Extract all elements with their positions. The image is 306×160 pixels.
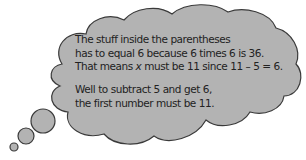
thought-text: That means bbox=[75, 60, 136, 72]
thought-line: That means x must be 11 since 11 – 5 = 6… bbox=[75, 60, 283, 74]
thought-line: the first number must be 11. bbox=[75, 97, 214, 111]
thought-paragraph-1: The stuff inside the parentheses has to … bbox=[75, 33, 283, 74]
thought-cloud bbox=[0, 0, 306, 160]
thought-bubble-medium bbox=[18, 128, 34, 144]
thought-paragraph-2: Well to subtract 5 and get 6, the first … bbox=[75, 83, 214, 110]
thought-bubble-small bbox=[10, 143, 18, 151]
thought-line: The stuff inside the parentheses bbox=[75, 33, 283, 47]
thought-bubble-large bbox=[31, 109, 55, 133]
thought-text: must be 11 since 11 – 5 = 6. bbox=[141, 60, 282, 72]
cloud-shape bbox=[51, 5, 301, 144]
thought-line: has to equal 6 because 6 times 6 is 36. bbox=[75, 47, 283, 61]
thought-line: Well to subtract 5 and get 6, bbox=[75, 83, 214, 97]
